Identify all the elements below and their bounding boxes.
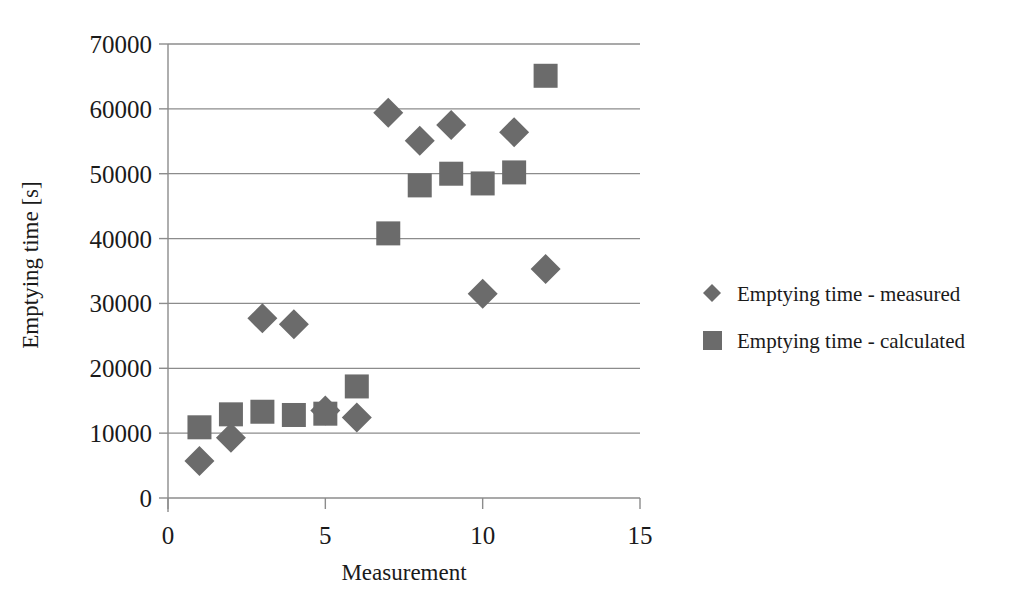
legend: Emptying time - measured Emptying time -… bbox=[703, 282, 966, 353]
data-point-square bbox=[376, 221, 400, 245]
data-point-square bbox=[187, 415, 211, 439]
data-point-diamond bbox=[468, 279, 498, 309]
data-point-diamond bbox=[436, 110, 466, 140]
y-tick-label: 20000 bbox=[90, 355, 153, 382]
x-tick-label: 10 bbox=[470, 522, 495, 549]
data-point-diamond bbox=[531, 254, 561, 284]
data-point-diamond bbox=[499, 117, 529, 147]
data-point-square bbox=[250, 400, 274, 424]
data-point-diamond bbox=[216, 423, 246, 453]
data-point-square bbox=[534, 64, 558, 88]
y-tick-label: 10000 bbox=[90, 420, 153, 447]
data-point-diamond bbox=[373, 98, 403, 128]
data-point-square bbox=[502, 160, 526, 184]
x-tick-label: 5 bbox=[319, 522, 332, 549]
data-point-square bbox=[282, 403, 306, 427]
data-point-square bbox=[471, 171, 495, 195]
data-point-square bbox=[345, 374, 369, 398]
diamond-marker-icon bbox=[703, 284, 721, 302]
legend-label-calculated: Emptying time - calculated bbox=[737, 329, 966, 353]
data-point-square bbox=[439, 162, 463, 186]
data-point-diamond bbox=[247, 303, 277, 333]
legend-label-measured: Emptying time - measured bbox=[737, 282, 961, 306]
x-tick-label: 0 bbox=[162, 522, 175, 549]
y-tick-label: 50000 bbox=[90, 161, 153, 188]
data-point-diamond bbox=[279, 309, 309, 339]
y-axis-ticks-group: 010000200003000040000500006000070000 bbox=[90, 31, 169, 512]
legend-item-measured: Emptying time - measured bbox=[703, 282, 961, 306]
data-point-square bbox=[408, 173, 432, 197]
scatter-chart: 010000200003000040000500006000070000 051… bbox=[0, 0, 1026, 607]
data-point-diamond bbox=[342, 403, 372, 433]
y-tick-label: 30000 bbox=[90, 290, 153, 317]
y-tick-label: 60000 bbox=[90, 96, 153, 123]
data-point-diamond bbox=[184, 446, 214, 476]
chart-canvas: 010000200003000040000500006000070000 051… bbox=[0, 0, 1026, 607]
y-tick-label: 0 bbox=[140, 485, 153, 512]
square-marker-icon bbox=[703, 331, 722, 350]
x-tick-label: 15 bbox=[628, 522, 653, 549]
y-axis-title: Emptying time [s] bbox=[18, 181, 43, 348]
y-tick-label: 70000 bbox=[90, 31, 153, 58]
y-tick-label: 40000 bbox=[90, 226, 153, 253]
x-axis-ticks-group: 051015 bbox=[162, 498, 653, 549]
x-axis-title: Measurement bbox=[341, 560, 467, 585]
series-calculated-points bbox=[187, 64, 557, 440]
data-point-diamond bbox=[405, 126, 435, 156]
legend-item-calculated: Emptying time - calculated bbox=[703, 329, 966, 353]
